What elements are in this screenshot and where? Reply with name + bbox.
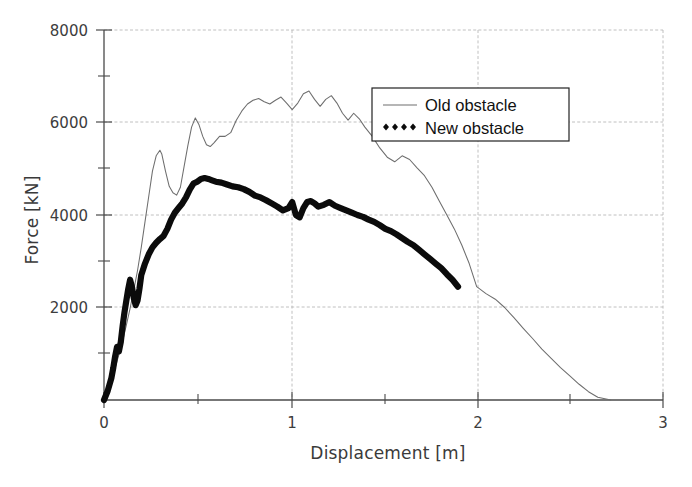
legend-label-new-obstacle: New obstacle xyxy=(425,119,524,137)
vertical-gridlines xyxy=(292,30,663,400)
x-tick-label: 2 xyxy=(473,414,483,432)
legend-label-old-obstacle: Old obstacle xyxy=(425,96,517,114)
y-tick-label: 2000 xyxy=(50,299,88,317)
figure-container: 8000 6000 4000 2000 0 1 2 3 Displacement… xyxy=(0,0,692,487)
y-axis-tick-labels: 8000 6000 4000 2000 xyxy=(50,22,88,317)
x-axis-tick-labels: 0 1 2 3 xyxy=(99,414,668,432)
y-axis-title: Force [kN] xyxy=(22,175,42,264)
y-tick-label: 6000 xyxy=(50,114,88,132)
force-displacement-chart: 8000 6000 4000 2000 0 1 2 3 Displacement… xyxy=(0,0,692,487)
x-axis-title: Displacement [m] xyxy=(310,443,465,463)
horizontal-gridlines xyxy=(104,30,663,307)
chart-legend[interactable]: Old obstacle New obstacle xyxy=(372,88,569,141)
x-tick-label: 1 xyxy=(287,414,297,432)
series-line-new-obstacle xyxy=(104,178,458,400)
x-tick-label: 3 xyxy=(658,414,668,432)
y-tick-label: 8000 xyxy=(50,22,88,40)
x-tick-label: 0 xyxy=(99,414,109,432)
y-tick-label: 4000 xyxy=(50,207,88,225)
x-axis-minor-ticks xyxy=(198,394,570,404)
